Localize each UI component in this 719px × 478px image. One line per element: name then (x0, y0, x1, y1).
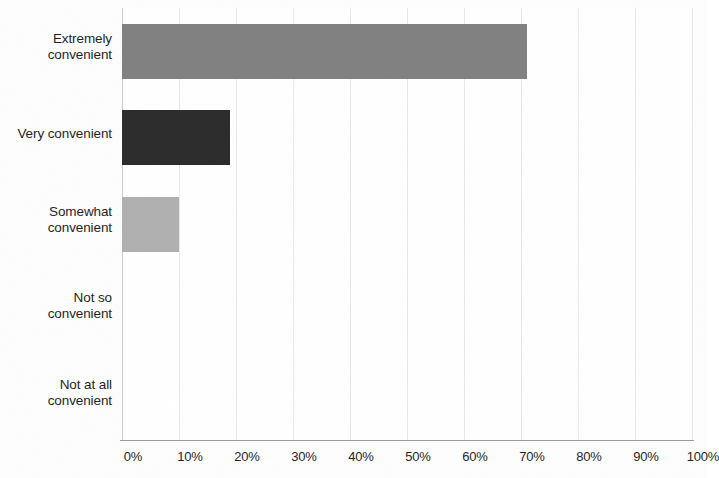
x-tick-label-90%: 90% (633, 449, 658, 464)
category-label-line: convenient (6, 220, 112, 236)
category-label-line: convenient (6, 47, 112, 63)
x-axis-tick-labels: 0%10%20%30%40%50%60%70%80%90%100% (0, 449, 707, 471)
category-label-1: Very convenient (6, 126, 112, 142)
category-label-line: Not so (6, 290, 112, 306)
x-tick-label-80%: 80% (576, 449, 601, 464)
category-label-line: Extremely (6, 31, 112, 47)
bar-1 (122, 110, 230, 165)
bar-0 (122, 24, 527, 79)
x-tick-label-40%: 40% (348, 449, 373, 464)
x-tick-label-50%: 50% (405, 449, 430, 464)
bar-2 (122, 197, 179, 252)
gridline-80% (578, 8, 579, 440)
x-tick-label-60%: 60% (462, 449, 487, 464)
gridline-100% (692, 8, 693, 440)
category-label-line: convenient (6, 393, 112, 409)
category-label-2: Somewhatconvenient (6, 204, 112, 236)
category-label-4: Not at allconvenient (6, 377, 112, 409)
y-axis-category-labels: ExtremelyconvenientVery convenientSomewh… (0, 0, 112, 440)
category-label-line: Somewhat (6, 204, 112, 220)
x-tick-label-10%: 10% (177, 449, 202, 464)
category-label-3: Not soconvenient (6, 290, 112, 322)
x-tick-label-70%: 70% (519, 449, 544, 464)
category-label-0: Extremelyconvenient (6, 31, 112, 63)
x-axis-line (120, 440, 694, 441)
category-label-line: Not at all (6, 377, 112, 393)
x-tick-label-100%: 100% (687, 449, 719, 464)
category-label-line: convenient (6, 306, 112, 322)
x-tick-label-20%: 20% (234, 449, 259, 464)
category-label-line: Very convenient (6, 126, 112, 142)
x-tick-label-0%: 0% (124, 449, 142, 464)
gridline-90% (635, 8, 636, 440)
plot-area (122, 8, 692, 440)
x-tick-label-30%: 30% (291, 449, 316, 464)
